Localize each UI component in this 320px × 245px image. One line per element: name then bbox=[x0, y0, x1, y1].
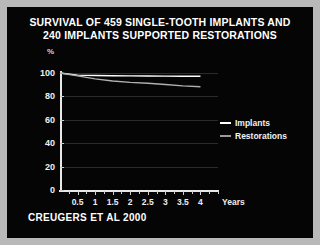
chart-legend: ImplantsRestorations bbox=[220, 117, 310, 143]
legend-label: Restorations bbox=[235, 131, 287, 141]
series-line-implants bbox=[60, 73, 200, 76]
slide-frame: SURVIVAL OF 459 SINGLE-TOOTH IMPLANTS AN… bbox=[0, 0, 320, 245]
legend-item: Restorations bbox=[220, 130, 310, 142]
citation-footer: CREUGERS ET AL 2000 bbox=[28, 212, 147, 223]
slide-canvas: SURVIVAL OF 459 SINGLE-TOOTH IMPLANTS AN… bbox=[7, 7, 313, 238]
legend-line-swatch bbox=[220, 122, 231, 124]
legend-label: Implants bbox=[235, 118, 270, 128]
legend-line-swatch bbox=[220, 135, 231, 137]
legend-item: Implants bbox=[220, 117, 310, 129]
x-axis-title: Years bbox=[222, 197, 245, 207]
